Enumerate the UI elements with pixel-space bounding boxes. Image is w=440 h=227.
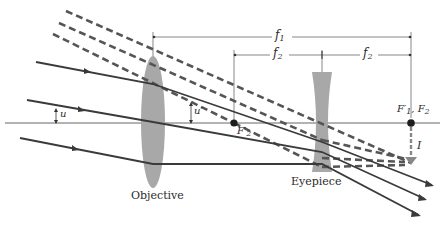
eyepiece-lens [312,72,332,172]
ray-top-arrow-icon [84,68,91,74]
focal-f2-prime-label: F′2 [237,126,251,138]
dashed-ray-top [66,11,411,163]
f2-left-label: f2 [273,47,283,61]
objective-label: Objective [131,190,184,201]
ray-bottom-out-arrow-icon [411,210,421,217]
ray-direction-arrows [72,68,91,151]
f1-dim-end-right [409,36,412,39]
focal-point-f1-f2 [407,119,415,127]
angle-u-prime-label: u′ [194,106,203,116]
ray-middle-out-arrow-icon [418,194,427,201]
image-label: I [417,140,421,151]
ray-bottom-arrow-icon [72,145,79,151]
eyepiece-label: Eyepiece [291,176,342,187]
f2-dim-end-left [234,54,237,57]
dashed-ray-cont-3 [322,165,405,167]
dashed-ray-cont-1 [322,140,411,160]
f2-dim-end-right [409,54,412,57]
focal-f1-f2-label: F′1, F2 [397,104,430,116]
f1-label: f1 [275,29,285,43]
telescope-ray-diagram: f1 f2 f2 u u′ F′2 F′1, F2 I Objective Ey… [0,0,440,227]
ray-middle-arrow-icon [78,106,85,112]
angle-u-arrow-top-icon [54,108,58,112]
dashed-rays [53,11,411,167]
f2-right-label: f2 [363,47,373,61]
ray-top-out-arrow-icon [425,180,434,187]
f1-dim-end-left [153,36,156,39]
image-arrowhead-icon [405,157,417,165]
angle-u-label: u [60,109,66,119]
solid-rays [20,62,432,215]
